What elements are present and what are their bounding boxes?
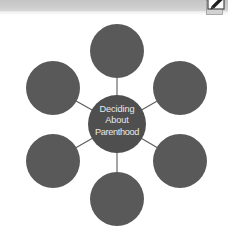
header-band-fade <box>0 11 228 15</box>
hub-and-spoke-diagram <box>0 0 228 249</box>
node-upper-left[interactable] <box>26 61 80 115</box>
node-bottom[interactable] <box>90 172 144 226</box>
screenshot-root: Deciding About Parenthood <box>0 0 228 249</box>
hub-node[interactable] <box>88 95 146 153</box>
edit-pencil-icon[interactable] <box>204 0 226 16</box>
header-band <box>0 0 228 11</box>
node-upper-right[interactable] <box>153 61 207 115</box>
edit-pencil-icon-glyph <box>204 0 226 16</box>
node-top[interactable] <box>90 24 144 78</box>
node-lower-right[interactable] <box>153 134 207 188</box>
diagram-canvas <box>0 0 228 249</box>
node-lower-left[interactable] <box>26 134 80 188</box>
